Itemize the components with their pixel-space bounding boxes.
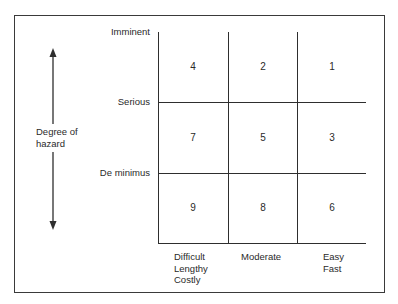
- y-axis-title: Degree of hazard: [36, 124, 78, 152]
- grid-vline-2: [228, 32, 229, 244]
- cell-r3c1: 9: [183, 202, 203, 214]
- cell-r3c2: 8: [253, 202, 273, 214]
- grid-vline-3: [297, 32, 298, 244]
- grid-hline-bottom: [158, 243, 366, 244]
- column-label-line: Difficult: [174, 251, 208, 263]
- cell-r2c1: 7: [183, 132, 203, 144]
- cell-r1c3: 1: [322, 61, 342, 73]
- grid-hline-serious: [158, 102, 366, 103]
- column-label-moderate: Moderate: [241, 251, 281, 263]
- column-label-easy: Easy Fast: [323, 251, 344, 274]
- cell-r1c2: 2: [253, 61, 273, 73]
- cell-r2c3: 3: [322, 132, 342, 144]
- column-label-line: Easy: [323, 251, 344, 263]
- column-label-line: Lengthy: [174, 263, 208, 275]
- y-axis-title-line2: hazard: [36, 138, 78, 150]
- level-label-serious: Serious: [80, 96, 150, 107]
- cell-r1c1: 4: [183, 61, 203, 73]
- column-label-line: Moderate: [241, 251, 281, 263]
- level-label-de-minimus: De minimus: [80, 167, 150, 178]
- column-label-difficult: Difficult Lengthy Costly: [174, 251, 208, 286]
- y-axis-title-line1: Degree of: [36, 126, 78, 138]
- column-label-line: Costly: [174, 274, 208, 286]
- cell-r2c2: 5: [253, 132, 273, 144]
- column-label-line: Fast: [323, 263, 344, 275]
- grid-hline-de-minimus: [158, 173, 366, 174]
- level-label-imminent: Imminent: [80, 26, 150, 37]
- cell-r3c3: 6: [322, 202, 342, 214]
- grid-vline-1: [158, 32, 159, 244]
